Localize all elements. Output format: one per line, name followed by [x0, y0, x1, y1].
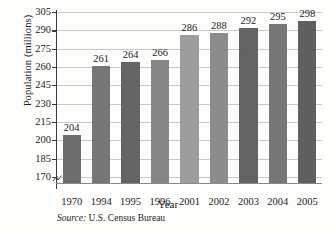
y-axis-tick-label: 260: [35, 62, 51, 73]
y-axis-tick: [52, 122, 57, 123]
bar-value-label: 288: [211, 21, 227, 32]
bar: 295: [269, 24, 287, 183]
y-axis-tick-label: 200: [35, 135, 51, 146]
bar-value-label: 204: [64, 123, 80, 134]
source-label: Source:: [57, 213, 86, 223]
bar-value-label: 266: [152, 48, 168, 59]
bar-value-label: 292: [241, 16, 257, 27]
y-axis-tick: [52, 159, 57, 160]
y-axis-tick-label: 185: [35, 153, 51, 164]
y-axis-tick-label: 275: [35, 43, 51, 54]
source-note: Source: U.S. Census Bureau: [57, 213, 165, 223]
y-axis-tick: [52, 177, 57, 178]
y-axis-tick: [52, 67, 57, 68]
y-axis-tick-label: 230: [35, 98, 51, 109]
y-axis-tick-label: 305: [35, 7, 51, 18]
bar: 204: [63, 135, 81, 183]
bar: 288: [210, 33, 228, 183]
population-bar-chart: Population (millions) 170185200215230245…: [0, 0, 336, 231]
y-axis-tick: [52, 140, 57, 141]
x-axis-title: Year: [0, 198, 336, 210]
bar: 286: [180, 35, 198, 183]
y-axis-tick-label: 290: [35, 25, 51, 36]
y-axis-tick-label: 245: [35, 80, 51, 91]
y-axis-tick: [52, 12, 57, 13]
bar: 298: [298, 21, 316, 183]
plot-area: 170185200215230245260275290305 204261264…: [57, 12, 322, 183]
bar: 266: [151, 60, 169, 183]
bar: 261: [92, 66, 110, 183]
bar-value-label: 298: [299, 9, 315, 20]
bar-value-label: 295: [270, 12, 286, 23]
bar-value-label: 261: [93, 54, 109, 65]
y-axis-tick: [52, 104, 57, 105]
bar-value-label: 286: [182, 23, 198, 34]
bar: 264: [121, 62, 139, 183]
y-axis-title: Population (millions): [22, 0, 33, 136]
y-axis-tick: [52, 49, 57, 50]
bar: 292: [239, 28, 257, 183]
y-axis-tick-label: 170: [35, 172, 51, 183]
bar-value-label: 264: [123, 50, 139, 61]
y-axis-tick: [52, 30, 57, 31]
source-text: U.S. Census Bureau: [89, 213, 166, 223]
y-axis-tick-label: 215: [35, 117, 51, 128]
y-axis-tick: [52, 85, 57, 86]
